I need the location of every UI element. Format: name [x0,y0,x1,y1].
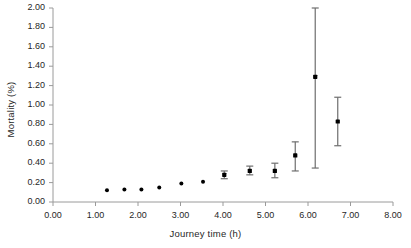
y-tick-label: 1.60 [11,41,45,51]
y-tick-label: 1.80 [11,21,45,31]
y-tick-label: 1.00 [11,99,45,109]
data-point-marker [105,188,109,192]
data-point-marker [313,75,317,79]
data-point-marker [248,169,252,173]
data-point-marker [273,169,277,173]
x-tick-label: 5.00 [246,210,286,220]
x-tick-label: 6.00 [288,210,328,220]
y-tick-label: 0.80 [11,118,45,128]
error-bars [221,8,341,179]
y-tick-label: 0.00 [11,196,45,206]
x-tick-label: 7.00 [331,210,371,220]
x-tick-label: 8.00 [373,210,411,220]
y-axis-title: Mortality (%) [5,64,16,156]
data-point-marker [201,180,205,184]
data-point-marker [293,153,297,157]
x-tick-label: 0.00 [33,210,73,220]
y-tick-label: 2.00 [11,2,45,12]
data-point-marker [139,187,143,191]
data-point-marker [336,119,340,123]
figure: 0.000.200.400.600.801.001.201.401.601.80… [0,0,411,248]
data-point-marker [157,185,161,189]
x-axis-title: Journey time (h) [0,228,411,239]
data-point-marker [179,182,183,186]
y-tick-label: 1.20 [11,80,45,90]
x-tick-label: 3.00 [161,210,201,220]
data-point-marker [222,173,226,177]
x-tick-label: 2.00 [118,210,158,220]
x-tick-label: 4.00 [203,210,243,220]
data-points [105,75,340,193]
data-point-marker [122,187,126,191]
y-tick-label: 0.60 [11,138,45,148]
y-tick-label: 1.40 [11,60,45,70]
tick-marks [49,8,393,206]
y-tick-label: 0.20 [11,177,45,187]
y-tick-label: 0.40 [11,157,45,167]
x-tick-label: 1.00 [76,210,116,220]
error-bar [312,8,319,168]
